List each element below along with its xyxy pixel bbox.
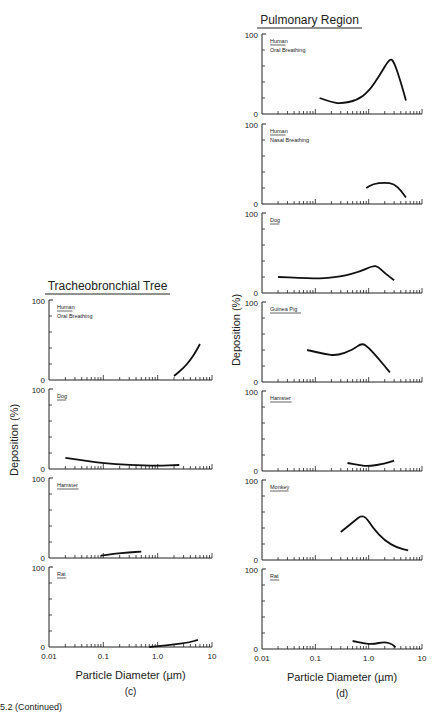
figure-caption: 5.2 (Continued) xyxy=(0,702,62,712)
x-axis-label: Particle Diameter (µm) xyxy=(75,669,185,681)
species-label: Dog xyxy=(57,393,67,399)
subplot-hamster: 1000Hamster xyxy=(245,388,422,476)
x-tick-label: 0.1 xyxy=(98,652,110,661)
y-tick-label: 0 xyxy=(254,110,259,119)
y-tick-label: 100 xyxy=(245,566,259,575)
x-tick-label: 10 xyxy=(418,654,427,663)
x-tick-label: 1.0 xyxy=(363,654,375,663)
species-label: Hamster xyxy=(57,482,78,488)
breathing-mode-label: Nasal Breathing xyxy=(270,137,309,143)
deposition-curve xyxy=(320,60,406,103)
species-label: Dog xyxy=(270,217,280,223)
deposition-chart-figure: Tracheobronchial Tree1000HumanOral Breat… xyxy=(0,0,441,714)
deposition-curve xyxy=(353,641,396,647)
deposition-curve xyxy=(366,183,406,198)
species-label: Hamster xyxy=(270,395,291,401)
deposition-curve xyxy=(341,516,408,550)
x-tick-label: 1.0 xyxy=(152,652,164,661)
y-tick-label: 0 xyxy=(254,645,259,654)
panel-label: (c) xyxy=(125,686,137,697)
subplot-human-oral-breathing: 1000HumanOral Breathing xyxy=(245,31,422,119)
y-tick-label: 0 xyxy=(254,467,259,476)
subplot-dog: 1000Dog xyxy=(245,210,422,298)
subplot-monkey: 1000Monkey xyxy=(245,477,422,565)
y-axis-label: Deposition (%) xyxy=(8,404,20,476)
x-tick-label: 0.1 xyxy=(310,654,322,663)
subplot-guinea-pig: 1000Guinea Pig xyxy=(245,299,422,387)
subplot-human-oral-breathing: 1000HumanOral Breathing xyxy=(32,297,212,385)
x-axis-label: Particle Diameter (µm) xyxy=(287,671,397,683)
y-tick-label: 100 xyxy=(32,386,46,395)
x-tick-label: 0.01 xyxy=(41,652,57,661)
y-tick-label: 100 xyxy=(32,297,46,306)
subplot-rat: 1000Rat xyxy=(245,566,422,654)
y-tick-label: 100 xyxy=(245,477,259,486)
y-tick-label: 100 xyxy=(245,121,259,130)
y-tick-label: 100 xyxy=(245,388,259,397)
subplot-rat: 1000Rat xyxy=(32,564,212,652)
deposition-curve xyxy=(278,266,394,280)
y-tick-label: 100 xyxy=(32,475,46,484)
deposition-curve xyxy=(65,458,179,466)
subplot-hamster: 1000Hamster xyxy=(32,475,212,563)
species-label: Human xyxy=(270,128,288,134)
y-tick-label: 100 xyxy=(245,210,259,219)
subplot-dog: 1000Dog xyxy=(32,386,212,474)
species-label: Rat xyxy=(270,573,279,579)
x-tick-label: 10 xyxy=(208,652,217,661)
deposition-curve xyxy=(174,344,200,376)
y-tick-label: 0 xyxy=(41,554,46,563)
panel-c: Tracheobronchial Tree1000HumanOral Breat… xyxy=(8,279,217,697)
panel-label: (d) xyxy=(336,688,348,699)
species-label: Monkey xyxy=(270,484,290,490)
y-axis-label: Deposition (%) xyxy=(230,294,242,366)
y-tick-label: 0 xyxy=(254,200,259,209)
y-tick-label: 0 xyxy=(41,465,46,474)
y-tick-label: 0 xyxy=(254,378,259,387)
panel-title: Tracheobronchial Tree xyxy=(48,279,168,293)
panel-d: Pulmonary Region1000HumanOral Breathing1… xyxy=(230,13,427,699)
y-tick-label: 0 xyxy=(254,556,259,565)
species-label: Human xyxy=(57,304,75,310)
y-tick-label: 100 xyxy=(32,564,46,573)
breathing-mode-label: Oral Breathing xyxy=(270,47,305,53)
panel-title: Pulmonary Region xyxy=(260,13,359,27)
y-tick-label: 0 xyxy=(254,289,259,298)
subplot-human-nasal-breathing: 1000HumanNasal Breathing xyxy=(245,121,422,209)
y-tick-label: 0 xyxy=(41,376,46,385)
x-tick-label: 0.01 xyxy=(254,654,270,663)
y-tick-label: 0 xyxy=(41,643,46,652)
species-label: Human xyxy=(270,38,288,44)
y-tick-label: 100 xyxy=(245,31,259,40)
deposition-curve xyxy=(307,344,390,372)
breathing-mode-label: Oral Breathing xyxy=(57,313,92,319)
species-label: Guinea Pig xyxy=(270,306,297,312)
deposition-curve xyxy=(347,461,394,466)
y-tick-label: 100 xyxy=(245,299,259,308)
deposition-curve xyxy=(101,552,141,556)
species-label: Rat xyxy=(57,571,66,577)
